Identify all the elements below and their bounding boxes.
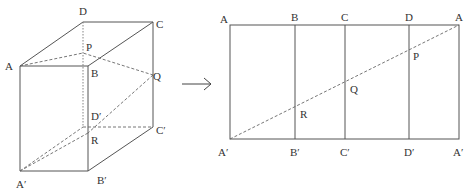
net-label-A-right: A <box>455 11 463 23</box>
label-B-prime: B′ <box>97 174 107 186</box>
net-label-P: P <box>413 50 419 62</box>
label-P: P <box>86 41 92 53</box>
net-figure: A B C D A A′ B′ C′ D′ A′ P Q R <box>218 11 463 158</box>
net-label-B: B <box>291 11 298 23</box>
label-D: D <box>79 5 87 17</box>
label-A: A <box>5 60 13 72</box>
label-C-prime: C′ <box>156 124 166 136</box>
path-RA-prime <box>20 133 88 171</box>
edge-BC <box>88 22 153 66</box>
prism-figure: A D C P B Q D′ C′ R B′ A′ <box>5 5 166 189</box>
label-R: R <box>91 134 99 146</box>
label-D-prime: D′ <box>91 110 101 122</box>
label-A-prime: A′ <box>16 178 26 189</box>
net-label-D-prime: D′ <box>404 146 414 158</box>
net-label-B-prime: B′ <box>290 146 300 158</box>
label-C: C <box>156 18 163 30</box>
diagram-canvas: A D C P B Q D′ C′ R B′ A′ A B C D A A′ B… <box>0 0 468 189</box>
label-B: B <box>91 67 98 79</box>
hidden-edge-A-prime-D-prime <box>20 127 83 171</box>
net-label-C-prime: C′ <box>340 146 350 158</box>
net-label-A-prime-right: A′ <box>453 146 463 158</box>
net-label-C: C <box>341 11 348 23</box>
net-label-R: R <box>300 108 308 120</box>
path-QR <box>88 75 153 133</box>
path-APQ <box>20 53 153 75</box>
net-label-A-prime-left: A′ <box>218 146 228 158</box>
net-label-Q: Q <box>350 83 358 95</box>
front-face <box>20 66 88 171</box>
net-label-A-left: A <box>220 13 228 25</box>
right-arrow-icon <box>182 78 211 90</box>
label-Q: Q <box>153 70 161 82</box>
net-label-D: D <box>405 11 413 23</box>
